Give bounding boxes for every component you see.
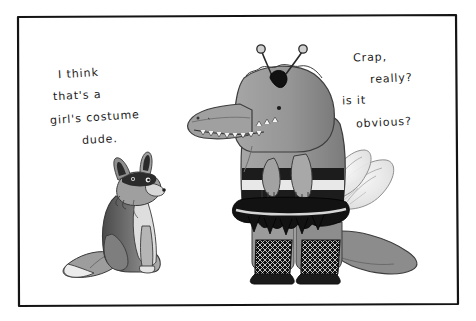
fox-dialogue-line-4: dude. <box>82 133 118 146</box>
comic-artwork <box>0 0 476 321</box>
fishnet-stockings <box>250 240 340 284</box>
alligator-nostril <box>197 117 200 120</box>
alligator-dialogue-line-2: really? <box>370 72 413 85</box>
alligator-eye <box>277 106 281 110</box>
alligator-dialogue-line-1: Crap, <box>353 51 387 63</box>
fox-dialogue-line-1: I think <box>58 67 99 80</box>
fox-dialogue-line-2: that's a <box>53 89 102 103</box>
comic-panel: I think that's a girl's costume dude. Cr… <box>0 0 476 321</box>
fox-nose <box>162 188 166 192</box>
alligator-dialogue-line-3: is it <box>342 95 367 107</box>
alligator-dialogue-line-4: obvious? <box>356 116 412 130</box>
fox-character <box>63 152 166 277</box>
